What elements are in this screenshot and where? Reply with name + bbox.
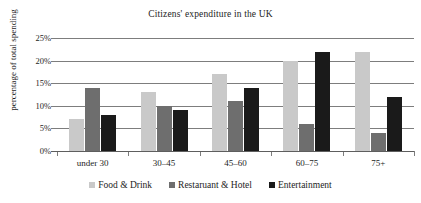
bar (69, 119, 84, 151)
x-axis-category-label: under 30 (57, 158, 128, 168)
bar (299, 124, 314, 151)
y-axis-tick-label: 5% (21, 124, 51, 133)
y-axis-tick-label: 25% (21, 34, 51, 43)
x-axis-tick (414, 151, 415, 156)
x-axis-category-labels: under 3030–4545–6060–7575+ (57, 158, 414, 172)
legend-swatch-icon (169, 182, 175, 188)
bar (101, 115, 116, 151)
y-axis-tick-label: 15% (21, 79, 51, 88)
bar (157, 106, 172, 151)
bar (212, 74, 227, 151)
x-axis-category-label: 75+ (343, 158, 414, 168)
legend-entry[interactable]: Food & Drink (89, 180, 152, 190)
bar (228, 101, 243, 151)
bar (283, 61, 298, 151)
plot-area (57, 38, 414, 151)
legend-label: Entertainment (278, 180, 332, 190)
bar-group (200, 38, 271, 151)
bar (355, 52, 370, 151)
x-axis-baseline (51, 151, 414, 152)
chart-legend: Food & DrinkRestaruant & HotelEntertainm… (0, 180, 421, 190)
y-axis-tick-label: 20% (21, 57, 51, 66)
bar-group (343, 38, 414, 151)
bar (387, 97, 402, 151)
legend-swatch-icon (269, 182, 275, 188)
bar (244, 88, 259, 151)
chart-title: Citizens' expenditure in the UK (0, 9, 421, 19)
bar (315, 52, 330, 151)
bar (173, 110, 188, 151)
legend-swatch-icon (89, 182, 95, 188)
y-axis-tick-labels: 25%20%15%10%5%0% (17, 38, 51, 151)
bar-group (57, 38, 128, 151)
y-axis-tick-label: 10% (21, 102, 51, 111)
x-axis-category-label: 45–60 (200, 158, 271, 168)
bar (141, 92, 156, 151)
bar-group (271, 38, 342, 151)
legend-label: Restaruant & Hotel (178, 180, 252, 190)
x-axis-category-label: 60–75 (271, 158, 342, 168)
y-axis-tick-label: 0% (21, 147, 51, 156)
bar (85, 88, 100, 151)
bar-group (128, 38, 199, 151)
bar (371, 133, 386, 151)
legend-entry[interactable]: Restaruant & Hotel (169, 180, 252, 190)
legend-entry[interactable]: Entertainment (269, 180, 332, 190)
bar-chart-figure: Citizens' expenditure in the UK percenta… (0, 0, 421, 203)
x-axis-category-label: 30–45 (128, 158, 199, 168)
legend-label: Food & Drink (98, 180, 152, 190)
